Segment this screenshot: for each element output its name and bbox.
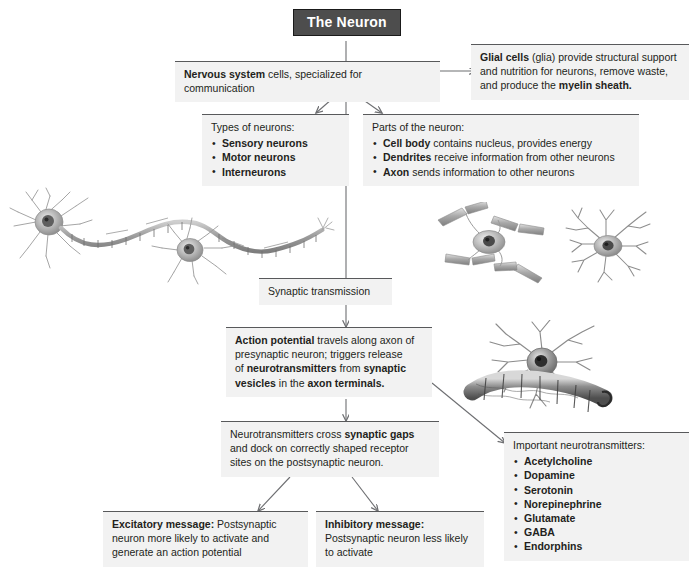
cross-gaps-l1-rest: Neurotransmitters cross: [230, 428, 344, 440]
parts-item-2-rest: sends information to other neurons: [409, 166, 574, 178]
action-potential-bold: Action potential: [235, 334, 314, 346]
types-item-0: Sensory neurons: [222, 137, 308, 149]
parts-item-0-rest: contains nucleus, provides energy: [430, 137, 592, 149]
parts-item-1-rest: receive information from other neurons: [431, 151, 614, 163]
types-item-1: Motor neurons: [222, 151, 296, 163]
multipolar-star-neuron-illustration: [562, 206, 654, 284]
action-potential-l4-r1: in the: [276, 377, 308, 389]
excitatory-message-box: Excitatory message: Postsynaptic neuron …: [103, 511, 308, 567]
inhibitory-l2: Postsynaptic neuron less likely: [325, 532, 468, 544]
types-list: Sensory neurons Motor neurons Interneuro…: [211, 136, 340, 179]
parts-list: Cell body contains nucleus, provides ene…: [372, 136, 630, 179]
list-item: Cell body contains nucleus, provides ene…: [372, 136, 630, 150]
excitatory-l2: neuron more likely to activate and: [112, 532, 269, 544]
parts-item-1-bold: Dendrites: [383, 151, 431, 163]
glial-cells-box: Glial cells (glia) provide structural su…: [471, 44, 689, 100]
list-item: Norepinephrine: [513, 497, 680, 511]
glial-bold: Glial cells: [480, 51, 529, 63]
nt-item-5: GABA: [524, 526, 555, 538]
list-item: Motor neurons: [211, 150, 340, 164]
list-item: Interneurons: [211, 165, 340, 179]
list-item: Acetylcholine: [513, 454, 680, 468]
nt-item-4: Glutamate: [524, 512, 575, 524]
neuron-with-myelin-sheath-illustration: [458, 320, 638, 430]
nt-item-1: Dopamine: [524, 469, 575, 481]
bipolar-neuron-illustration: [436, 202, 548, 284]
action-potential-l3-r2: from: [337, 362, 364, 374]
axon-terminals-bold: axon terminals.: [307, 377, 384, 389]
action-potential-l3-r1: of: [235, 362, 247, 374]
action-potential-box: Action potential travels along axon of p…: [226, 327, 432, 397]
action-potential-l1-rest: travels along axon of: [314, 334, 414, 346]
glial-line2: and nutrition for neurons, remove waste,: [480, 65, 668, 77]
synaptic-gaps-bold: synaptic gaps: [344, 428, 414, 440]
list-item: GABA: [513, 525, 680, 539]
important-neurotransmitters-box: Important neurotransmitters: Acetylcholi…: [504, 432, 689, 561]
inhibitory-l3: to activate: [325, 546, 373, 558]
inhibitory-bold: Inhibitory message:: [325, 518, 424, 530]
types-heading: Types of neurons:: [211, 120, 340, 134]
nervous-system-bold: Nervous system: [184, 68, 265, 80]
glial-line1-rest: (glia) provide structural support: [529, 51, 677, 63]
excitatory-l3: generate an action potential: [112, 546, 242, 558]
types-item-2: Interneurons: [222, 166, 286, 178]
myelinated-neuron-chain-illustration: [6, 186, 336, 286]
important-nt-heading: Important neurotransmitters:: [513, 438, 680, 452]
parts-item-0-bold: Cell body: [383, 137, 430, 149]
list-item: Sensory neurons: [211, 136, 340, 150]
list-item: Serotonin: [513, 483, 680, 497]
inhibitory-message-box: Inhibitory message: Postsynaptic neuron …: [316, 511, 484, 567]
excitatory-bold: Excitatory message:: [112, 518, 214, 530]
glial-line3-rest: and produce the: [480, 79, 559, 91]
synaptic-transmission-label: Synaptic transmission: [268, 285, 370, 297]
list-item: Endorphins: [513, 539, 680, 553]
cross-gaps-l2: and dock on correctly shaped receptor: [230, 442, 409, 454]
cross-synaptic-gaps-box: Neurotransmitters cross synaptic gaps an…: [221, 421, 439, 477]
nervous-system-cells-box: Nervous system cells, specialized for co…: [175, 61, 440, 102]
page-title-label: The Neuron: [307, 14, 387, 30]
cross-gaps-l3: sites on the postsynaptic neuron.: [230, 456, 384, 468]
synaptic-transmission-box: Synaptic transmission: [259, 278, 392, 305]
list-item: Dendrites receive information from other…: [372, 150, 630, 164]
excitatory-l1-rest: Postsynaptic: [214, 518, 276, 530]
nt-item-2: Serotonin: [524, 484, 573, 496]
synaptic-bold: synaptic: [363, 362, 406, 374]
important-nt-list: Acetylcholine Dopamine Serotonin Norepin…: [513, 454, 680, 553]
neurotransmitters-bold: neurotransmitters: [247, 362, 337, 374]
myelin-sheath-bold: myelin sheath.: [559, 79, 632, 91]
nt-item-6: Endorphins: [524, 540, 582, 552]
parts-item-2-bold: Axon: [383, 166, 409, 178]
list-item: Dopamine: [513, 468, 680, 482]
action-potential-l2: presynaptic neuron; triggers release: [235, 348, 403, 360]
list-item: Glutamate: [513, 511, 680, 525]
neuron-concept-map: The Neuron Nervous system cells, special…: [0, 0, 693, 578]
vesicles-bold: vesicles: [235, 377, 276, 389]
types-of-neurons-box: Types of neurons: Sensory neurons Motor …: [202, 114, 349, 186]
parts-of-neuron-box: Parts of the neuron: Cell body contains …: [363, 114, 639, 186]
nt-item-0: Acetylcholine: [524, 455, 592, 467]
parts-heading: Parts of the neuron:: [372, 120, 630, 134]
page-title: The Neuron: [293, 9, 401, 36]
nt-item-3: Norepinephrine: [524, 498, 602, 510]
list-item: Axon sends information to other neurons: [372, 165, 630, 179]
